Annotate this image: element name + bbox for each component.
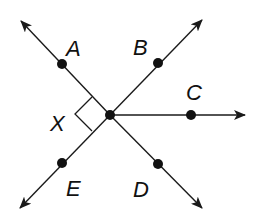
label-c: C [186,80,202,105]
point-b [153,58,163,68]
label-e: E [66,176,81,201]
labels-group: ABCDE [64,35,202,202]
label-d: D [133,177,149,202]
points-group [57,58,196,169]
point-c [186,110,196,120]
geometry-diagram: ABCDE X [0,0,256,214]
point-e [57,158,67,168]
angle-label-x: X [49,111,66,136]
label-a: A [64,36,81,61]
right-angle-marker [75,97,92,131]
vertex-point [105,110,115,120]
point-d [153,159,163,169]
label-b: B [133,35,148,60]
